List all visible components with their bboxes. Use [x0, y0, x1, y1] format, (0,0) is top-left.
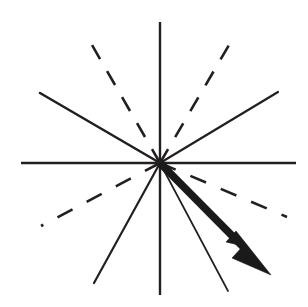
figure-canvas: [0, 0, 308, 307]
vector-diagram-figure: [0, 0, 308, 307]
